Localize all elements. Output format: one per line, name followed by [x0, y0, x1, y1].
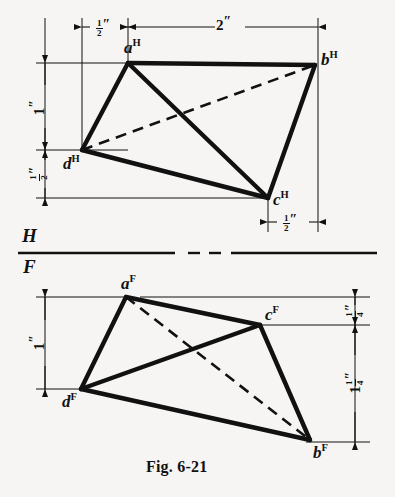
figure-page: aH bH cH dH aF bF cF dF H F 1 2 ″ 2″ 1″ [0, 0, 395, 497]
dimension-text-front-one-and-quarter-inch-vertical: 1 1 4 ″ [347, 364, 363, 402]
edge-cb-f [260, 325, 310, 440]
edge-cb-h [268, 65, 315, 198]
dimension-text-top-one-inch-vertical: 1″ [31, 95, 47, 121]
point-label-d-h: dH [63, 154, 80, 172]
point-label-d-f: dF [62, 392, 77, 410]
edge-ab-h [128, 63, 315, 65]
dimension-text-front-one-inch-vertical: 1″ [31, 330, 47, 356]
point-label-c-h: cH [273, 190, 289, 208]
top-view-solid-edges [82, 63, 315, 198]
point-label-a-f: aF [121, 274, 136, 292]
edge-db-h [82, 65, 315, 150]
dimension-text-top-half-inch-vertical: 1 2 ″ [31, 160, 47, 188]
dimension-text-top-half-inch-left: 1 2 ″ [96, 19, 109, 38]
point-label-c-f: cF [265, 305, 279, 323]
dimension-text-top-two-inch: 2″ [216, 18, 230, 33]
plane-label-horizontal: H [22, 226, 37, 245]
dimension-text-front-quarter-inch-vertical: 1 4 ″ [347, 297, 363, 325]
figure-caption: Fig. 6-21 [146, 458, 207, 476]
technical-drawing-canvas [0, 0, 395, 497]
point-label-b-h: bH [321, 50, 338, 68]
dimension-text-top-half-inch-bottom: 1 2 ″ [283, 214, 296, 233]
top-view-dashed-edges [82, 65, 315, 150]
point-label-b-f: bF [313, 443, 328, 461]
plane-label-frontal: F [23, 257, 36, 276]
point-label-a-h: aH [124, 38, 141, 56]
